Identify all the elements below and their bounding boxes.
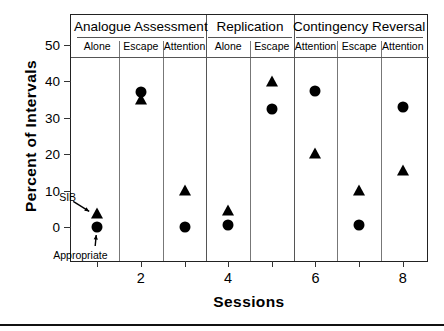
x-tick-label: 8 — [399, 270, 407, 286]
condition-separator — [250, 41, 251, 261]
data-point-sib — [309, 148, 321, 159]
y-tick — [64, 154, 71, 155]
annotation-appropriate-label: Appropriate — [53, 249, 107, 261]
data-point-appropriate — [397, 101, 408, 112]
y-tick-label: 30 — [45, 110, 60, 125]
condition-header: Attention — [295, 40, 336, 52]
x-tick — [315, 261, 316, 267]
annotation-sib-label: SIB — [59, 191, 76, 203]
y-tick — [64, 81, 71, 82]
plot-area: 01020304050 2468 Analogue AssessmentRepl… — [70, 14, 428, 262]
condition-separator — [337, 41, 338, 261]
data-point-appropriate — [92, 222, 103, 233]
phase-separator — [206, 15, 207, 261]
data-point-sib — [266, 75, 278, 86]
x-tick-label: 6 — [311, 270, 319, 286]
data-point-sib — [353, 184, 365, 195]
phase-header-rule — [77, 37, 204, 38]
y-tick-label: 10 — [45, 183, 60, 198]
data-point-appropriate — [223, 220, 234, 231]
data-point-sib — [222, 204, 234, 215]
y-tick-label: 40 — [45, 74, 60, 89]
x-tick — [141, 261, 142, 267]
condition-header: Escape — [342, 40, 377, 52]
figure: Percent of Intervals Sessions 0102030405… — [0, 0, 444, 331]
condition-header: Attention — [164, 40, 205, 52]
y-tick-label: 20 — [45, 147, 60, 162]
condition-band-rule — [71, 57, 429, 58]
x-tick — [272, 261, 273, 267]
x-tick-label: 2 — [137, 270, 145, 286]
data-point-sib — [179, 184, 191, 195]
x-tick — [185, 261, 186, 267]
data-point-appropriate — [310, 85, 321, 96]
data-point-sib — [397, 164, 409, 175]
y-tick-label: 0 — [52, 220, 60, 235]
phase-header-rule — [296, 37, 423, 38]
data-point-appropriate — [354, 220, 365, 231]
condition-header: Escape — [254, 40, 289, 52]
y-tick — [64, 118, 71, 119]
footer-rule — [0, 324, 444, 326]
y-tick — [64, 227, 71, 228]
data-point-appropriate — [266, 103, 277, 114]
y-tick-label: 50 — [45, 38, 60, 53]
condition-separator — [381, 41, 382, 261]
condition-separator — [119, 41, 120, 261]
condition-header: Escape — [123, 40, 158, 52]
x-tick — [359, 261, 360, 267]
condition-separator — [163, 41, 164, 261]
condition-header: Alone — [84, 40, 111, 52]
phase-header-rule — [208, 37, 291, 38]
y-tick — [64, 45, 71, 46]
condition-header: Alone — [215, 40, 242, 52]
x-tick-label: 4 — [224, 270, 232, 286]
phase-header: Replication — [217, 19, 284, 34]
y-axis-title: Percent of Intervals — [22, 21, 40, 251]
data-point-sib — [91, 208, 103, 219]
arrow-appropriate — [94, 235, 98, 246]
condition-header: Attention — [382, 40, 423, 52]
phase-header: Analogue Assessment — [74, 19, 208, 34]
data-point-appropriate — [135, 87, 146, 98]
phase-header: Contingency Reversal — [293, 19, 425, 34]
data-point-appropriate — [179, 222, 190, 233]
x-axis-title: Sessions — [70, 293, 428, 311]
x-tick — [403, 261, 404, 267]
x-tick — [97, 261, 98, 267]
x-tick — [228, 261, 229, 267]
